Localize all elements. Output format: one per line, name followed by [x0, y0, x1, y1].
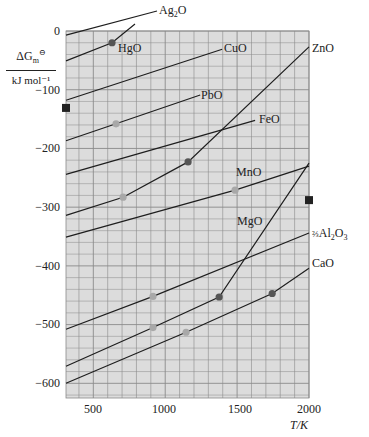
y-tick-minus-500: −500: [20, 317, 60, 332]
y-axis-label: ΔGm⊖ kJ mol⁻¹: [2, 46, 60, 87]
plot-area: [66, 31, 309, 398]
x-tick-500: 500: [73, 402, 113, 417]
y-tick-0: 0: [20, 24, 60, 39]
edge-marker-right: [305, 196, 313, 204]
marker-mno: [231, 187, 238, 194]
y-axis-label-sup: ⊖: [39, 48, 46, 57]
label-al2o3: ⅔Al2O3: [312, 226, 347, 242]
marker-mgo: [149, 324, 156, 331]
label-cao: CaO: [312, 256, 334, 271]
marker-al2o3: [149, 293, 156, 300]
marker-pbo: [112, 120, 119, 127]
label-mgo: MgO: [237, 214, 262, 229]
label-zno: ZnO: [312, 41, 334, 56]
label-mno: MnO: [236, 165, 261, 180]
marker-zno: [184, 158, 191, 165]
marker-cao: [269, 290, 276, 297]
y-tick-minus-100: −100: [20, 83, 60, 98]
y-axis-label-sub: m: [33, 56, 39, 65]
label-feo: FeO: [259, 112, 280, 127]
marker-mgo: [216, 293, 223, 300]
marker-cao: [182, 329, 189, 336]
y-tick-minus-200: −200: [20, 141, 60, 156]
y-tick-minus-300: −300: [20, 200, 60, 215]
label-cuo: CuO: [224, 41, 247, 56]
y-tick-minus-600: −600: [20, 376, 60, 391]
y-axis-label-delta-g: ΔG: [16, 49, 32, 63]
marker-zno: [119, 194, 126, 201]
edge-marker-left: [62, 104, 70, 112]
x-tick-1500: 1500: [220, 402, 260, 417]
y-tick-minus-400: −400: [20, 259, 60, 274]
label-ag2o: Ag2O: [159, 3, 186, 19]
y-axis-label-fraction-bar: [6, 70, 56, 71]
label-hgo: HgO: [118, 41, 141, 56]
label-pbo: PbO: [201, 88, 222, 103]
x-axis-label: T/K: [290, 418, 308, 433]
marker-hgo: [108, 39, 115, 46]
x-tick-1000: 1000: [144, 402, 184, 417]
x-tick-2000: 2000: [289, 402, 329, 417]
